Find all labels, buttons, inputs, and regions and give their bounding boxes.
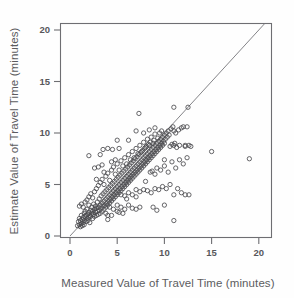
data-point bbox=[149, 135, 153, 139]
data-point-group bbox=[75, 105, 251, 229]
data-point bbox=[209, 149, 213, 153]
data-point bbox=[247, 157, 251, 161]
x-tick-label: 20 bbox=[254, 247, 265, 258]
data-point bbox=[151, 205, 155, 209]
data-point bbox=[111, 207, 115, 211]
x-axis-title: Measured Value of Travel Time (minutes) bbox=[61, 277, 274, 289]
data-point bbox=[166, 170, 170, 174]
data-point bbox=[102, 182, 106, 186]
data-point bbox=[123, 207, 127, 211]
data-point bbox=[164, 186, 168, 190]
data-point bbox=[141, 131, 145, 135]
data-point bbox=[143, 179, 147, 183]
data-point bbox=[149, 191, 153, 195]
data-point bbox=[172, 105, 176, 109]
data-point bbox=[134, 195, 138, 199]
data-point bbox=[147, 128, 151, 132]
data-point bbox=[172, 218, 176, 222]
data-point bbox=[123, 156, 127, 160]
data-point bbox=[126, 138, 130, 142]
data-point bbox=[185, 156, 189, 160]
data-point bbox=[106, 217, 110, 221]
data-point bbox=[87, 154, 91, 158]
y-tick-label: 15 bbox=[39, 76, 50, 87]
data-point bbox=[140, 149, 144, 153]
data-point bbox=[170, 160, 174, 164]
data-point bbox=[162, 203, 166, 207]
data-point bbox=[98, 152, 102, 156]
x-tick-label: 0 bbox=[67, 247, 72, 258]
data-point bbox=[155, 208, 159, 212]
identity-line bbox=[70, 24, 264, 236]
x-axis-tick-group bbox=[70, 238, 259, 244]
y-tick-label: 20 bbox=[39, 24, 50, 35]
data-point bbox=[106, 146, 110, 150]
data-point bbox=[100, 163, 104, 167]
y-tick-label: 10 bbox=[39, 127, 50, 138]
data-point bbox=[162, 164, 166, 168]
data-point bbox=[126, 203, 130, 207]
y-axis-title: Estimate Value of Travel Time (minutes) bbox=[8, 27, 20, 234]
x-tick-label: 5 bbox=[115, 247, 121, 258]
y-axis-tick-label-group: 05101520 bbox=[39, 24, 50, 241]
data-point bbox=[175, 186, 179, 190]
data-point bbox=[153, 172, 157, 176]
data-point bbox=[117, 168, 121, 172]
data-point bbox=[115, 162, 119, 166]
data-point bbox=[158, 168, 162, 172]
x-axis-tick-label-group: 05101520 bbox=[67, 247, 264, 258]
data-point bbox=[153, 126, 157, 130]
data-point bbox=[108, 178, 112, 182]
data-point bbox=[94, 177, 98, 181]
x-tick-label: 15 bbox=[206, 247, 217, 258]
data-point bbox=[168, 182, 172, 186]
data-point bbox=[134, 129, 138, 133]
identity-reference-line bbox=[70, 24, 264, 236]
data-point bbox=[138, 205, 142, 209]
data-point bbox=[162, 158, 166, 162]
data-point bbox=[110, 147, 114, 151]
y-axis-tick-group bbox=[54, 30, 60, 236]
chart-canvas: 05101520 05101520 Measured Value of Trav… bbox=[0, 0, 294, 298]
data-point bbox=[137, 111, 141, 115]
data-point bbox=[101, 147, 105, 151]
data-point bbox=[177, 158, 181, 162]
data-point bbox=[153, 132, 157, 136]
scatter-plot-figure: 05101520 05101520 Measured Value of Trav… bbox=[0, 0, 294, 298]
x-tick-label: 10 bbox=[159, 247, 170, 258]
data-point bbox=[119, 159, 123, 163]
data-point bbox=[172, 193, 176, 197]
data-point bbox=[134, 146, 138, 150]
data-point bbox=[113, 172, 117, 176]
data-point bbox=[115, 138, 119, 142]
data-point bbox=[138, 143, 142, 147]
data-point bbox=[141, 140, 145, 144]
data-point bbox=[117, 146, 121, 150]
data-point bbox=[174, 166, 178, 170]
data-point bbox=[126, 152, 130, 156]
data-point bbox=[113, 158, 117, 162]
y-tick-label: 5 bbox=[45, 179, 51, 190]
data-point bbox=[130, 149, 134, 153]
y-tick-label: 0 bbox=[45, 230, 50, 241]
data-point bbox=[181, 162, 185, 166]
